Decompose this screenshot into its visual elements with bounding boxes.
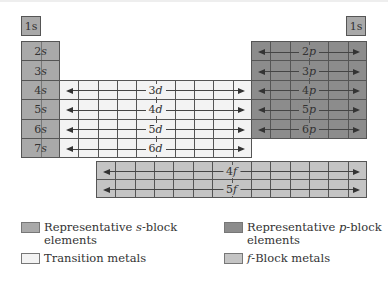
label-1s-right: 1s <box>350 20 363 33</box>
orbital-label: 5p <box>299 103 319 116</box>
orbital-label: 3d <box>145 84 165 97</box>
orbital-label: 2s <box>31 45 50 58</box>
legend-swatch <box>224 222 243 233</box>
d-row-5d: 5d <box>59 119 252 139</box>
legend-label: Representative s-blockelements <box>44 221 177 247</box>
arrow-left-icon <box>103 169 110 175</box>
orbital-label: 3p <box>299 65 319 78</box>
arrow-right-icon <box>238 146 245 152</box>
s-row-6s: 6s <box>21 119 60 139</box>
orbital-label: 6p <box>299 123 319 136</box>
arrow-right-icon <box>353 49 360 55</box>
s-row-3s: 3s <box>21 60 60 80</box>
orbital-label: 5s <box>31 103 50 116</box>
legend-label: Representative p-blockelements <box>247 221 382 247</box>
label-1s-left: 1s <box>25 20 38 33</box>
s-row-7s: 7s <box>21 138 60 158</box>
arrow-right-icon <box>353 187 360 193</box>
legend-swatch <box>224 253 243 264</box>
arrow-right-icon <box>353 107 360 113</box>
orbital-label: 1s <box>347 20 365 33</box>
cell-1s-left: 1s <box>21 16 41 36</box>
arrow-left-icon <box>66 88 73 94</box>
s-row-5s: 5s <box>21 99 60 119</box>
arrow-right-icon <box>353 88 360 94</box>
d-row-6d: 6d <box>59 138 252 158</box>
p-row-6p: 6p <box>251 119 367 139</box>
orbital-label: 5f <box>223 183 240 196</box>
top-rule <box>0 0 388 2</box>
orbital-label: 7s <box>31 142 50 155</box>
d-row-3d: 3d <box>59 80 252 100</box>
orbital-label: 3s <box>31 65 50 78</box>
orbital-label: 1s <box>22 20 40 33</box>
orbital-label: 6s <box>31 123 50 136</box>
arrow-right-icon <box>353 127 360 133</box>
arrow-left-icon <box>258 127 265 133</box>
arrow-right-icon <box>238 127 245 133</box>
orbital-label: 2p <box>299 45 319 58</box>
arrow-left-icon <box>258 107 265 113</box>
f-row-4f: 4f <box>96 161 367 180</box>
p-row-5p: 5p <box>251 99 367 119</box>
arrow-right-icon <box>353 69 360 75</box>
arrow-left-icon <box>258 49 265 55</box>
legend-label: f-Block metals <box>247 252 330 265</box>
arrow-right-icon <box>353 169 360 175</box>
orbital-label: 6d <box>145 142 165 155</box>
arrow-right-icon <box>238 88 245 94</box>
orbital-label: 4d <box>145 103 165 116</box>
arrow-left-icon <box>66 107 73 113</box>
orbital-label: 4p <box>299 84 319 97</box>
s-row-4s: 4s <box>21 80 60 100</box>
arrow-right-icon <box>238 107 245 113</box>
arrow-left-icon <box>66 146 73 152</box>
orbital-label: 5d <box>145 123 165 136</box>
f-row-5f: 5f <box>96 179 367 198</box>
p-row-3p: 3p <box>251 60 367 80</box>
arrow-left-icon <box>66 127 73 133</box>
d-row-4d: 4d <box>59 99 252 119</box>
arrow-left-icon <box>258 69 265 75</box>
s-row-2s: 2s <box>21 41 60 61</box>
arrow-left-icon <box>103 187 110 193</box>
cell-1s-right: 1s <box>346 16 366 36</box>
legend-label: Transition metals <box>44 252 146 265</box>
arrow-left-icon <box>258 88 265 94</box>
p-row-4p: 4p <box>251 80 367 100</box>
p-row-2p: 2p <box>251 41 367 61</box>
legend-swatch <box>21 222 40 233</box>
legend-swatch <box>21 253 40 264</box>
orbital-label: 4s <box>31 84 50 97</box>
orbital-label: 4f <box>223 165 240 178</box>
